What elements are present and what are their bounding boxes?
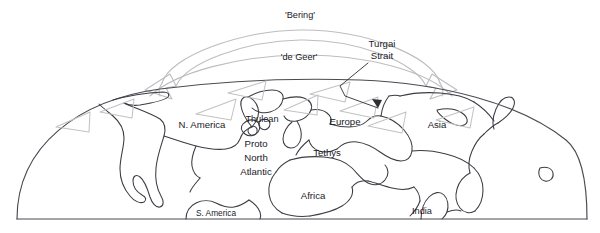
coastline-india-east — [447, 210, 461, 212]
coastline-asia-south — [412, 151, 474, 168]
migration-arrow-north-america-west — [56, 112, 90, 132]
label-asia: Asia — [428, 119, 447, 130]
label-europe: Europe — [330, 116, 361, 127]
label-proto-north-atlantic-line2: North — [244, 152, 267, 163]
coastline-east-asia-north — [484, 123, 498, 134]
migration-arrow-de-geer-west — [228, 81, 266, 100]
label-proto-north-atlantic-line3: Atlantic — [240, 166, 272, 177]
coastline-baltic-peninsula — [283, 121, 301, 148]
map-canvas: 'Bering' 'de Geer' Turgai Strait Thulean… — [0, 0, 600, 233]
coastline-north-america-west — [99, 103, 165, 207]
coastline-south-america-east — [249, 200, 261, 219]
coastline-greenland-north — [248, 90, 283, 113]
label-turgai-strait-line1: Turgai — [369, 38, 396, 49]
migration-arrow-de-geer-east — [310, 82, 350, 102]
migration-arrows-group — [56, 81, 474, 133]
label-tethys: Tethys — [313, 147, 341, 158]
coastline-north-sea-shelf — [311, 110, 331, 124]
coastline-asia-southeast — [474, 168, 483, 211]
coastline-asia-peninsula — [456, 173, 475, 213]
label-thulean: Thulean — [245, 114, 278, 124]
label-proto-north-atlantic-line1: Proto — [245, 138, 268, 149]
coastline-turgai-strait-east — [381, 96, 389, 116]
coastline-thulean-block-b — [248, 126, 257, 135]
coastline-island-fragment-a — [539, 167, 553, 181]
coastline-arabia — [414, 187, 420, 201]
label-bering: 'Bering' — [285, 10, 315, 20]
label-india: India — [412, 206, 433, 216]
coastline-africa-west — [282, 213, 310, 216]
label-de-geer: 'de Geer' — [281, 52, 318, 62]
migration-arrow-north-america-north — [100, 99, 134, 118]
label-n-america: N. America — [179, 119, 227, 130]
label-s-america: S. America — [196, 208, 237, 218]
coastline-africa-northwest — [269, 172, 282, 213]
migration-arrow-thulean-west — [196, 99, 236, 120]
coastline-tethys-north-shore — [290, 157, 388, 185]
paleogeographic-map-figure: 'Bering' 'de Geer' Turgai Strait Thulean… — [0, 0, 600, 233]
coastline-east-asia-coast — [469, 134, 484, 173]
coastline-iberia — [296, 140, 309, 155]
coastline-tethys-west — [276, 160, 290, 172]
coastline-turgai-strait-north — [389, 95, 400, 96]
turgai-strait-leader — [340, 63, 382, 108]
label-turgai-strait-line2: Strait — [371, 50, 394, 61]
label-africa: Africa — [301, 190, 326, 201]
bering-ribbon-arrow — [145, 30, 457, 99]
coastline-gulf-inlet-b — [190, 178, 200, 192]
coastline-north-america-southeast — [164, 127, 252, 149]
coastline-asia-northeast — [474, 102, 494, 121]
migration-arrow-europe-east — [368, 112, 406, 133]
coastline-gulf-inlet — [192, 146, 200, 178]
